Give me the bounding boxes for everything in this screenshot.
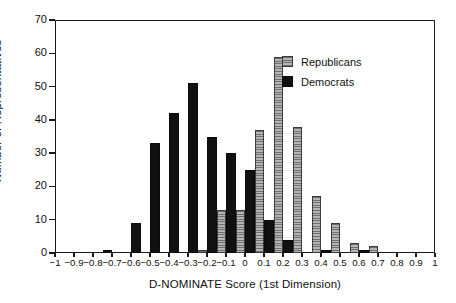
histogram-bar-rep	[236, 210, 246, 253]
x-tick-label: 1	[420, 258, 450, 269]
histogram-bar-dem	[321, 250, 331, 253]
histogram-bar-dem	[131, 223, 141, 253]
histogram-bar-dem	[103, 250, 113, 253]
y-axis-title: Number of Representatives	[0, 0, 3, 231]
histogram-bar-rep	[331, 223, 341, 253]
histogram-bar-dem	[245, 170, 255, 253]
histogram-bar-dem	[226, 153, 236, 253]
histogram-bar-dem	[207, 137, 217, 254]
y-tick-label: 10	[21, 214, 47, 225]
histogram-bar-rep	[350, 243, 360, 253]
x-axis-title: D-NOMINATE Score (1st Dimension)	[55, 278, 435, 290]
histogram-bar-rep	[217, 210, 227, 253]
histogram-bar-rep	[369, 246, 379, 253]
chart-page: 010203040506070 −1−0.9−0.8−0.7−0.6−0.5−0…	[0, 0, 456, 303]
y-tick-label: 20	[21, 180, 47, 191]
histogram-bar-rep	[198, 250, 208, 253]
histogram-bar-dem	[283, 240, 293, 253]
y-tick-label: 0	[21, 247, 47, 258]
histogram-bar-rep	[312, 196, 322, 253]
histogram-bar-rep	[255, 130, 265, 253]
histogram-bar-dem	[359, 250, 369, 253]
histogram-bar-rep	[293, 127, 303, 253]
histogram-bar-dem	[264, 220, 274, 253]
histogram-bar-dem	[188, 83, 198, 253]
legend-item-dem: Democrats	[282, 75, 362, 88]
y-tick-label: 30	[21, 147, 47, 158]
chart-legend: RepublicansDemocrats	[282, 55, 362, 95]
legend-label: Republicans	[301, 56, 362, 68]
y-tick-label: 60	[21, 47, 47, 58]
legend-label: Democrats	[301, 76, 354, 88]
legend-swatch-dem-icon	[282, 76, 293, 87]
y-tick-label: 70	[21, 14, 47, 25]
histogram-bar-dem	[169, 113, 179, 253]
legend-item-rep: Republicans	[282, 55, 362, 68]
legend-swatch-rep-icon	[282, 56, 293, 67]
y-tick-label: 50	[21, 81, 47, 92]
y-tick-label: 40	[21, 114, 47, 125]
histogram-bar-dem	[150, 143, 160, 253]
bars-layer	[55, 20, 435, 253]
